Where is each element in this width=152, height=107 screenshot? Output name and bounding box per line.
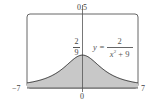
x-origin-label: 0 — [80, 93, 84, 101]
equation-denominator: x2 + 9 — [110, 49, 130, 58]
equation-numerator: 2 — [118, 37, 122, 46]
equation-lhs: y = — [93, 42, 105, 52]
y-max-label: 0.5 — [77, 4, 87, 12]
function-equation: y = 2 x2 + 9 — [93, 37, 133, 58]
peak-value-label: 2 9 — [73, 38, 80, 57]
peak-numerator: 2 — [75, 38, 79, 46]
x-max-label: 7 — [141, 85, 145, 93]
peak-denominator: 9 — [75, 49, 79, 57]
x-min-label: −7 — [12, 85, 21, 93]
